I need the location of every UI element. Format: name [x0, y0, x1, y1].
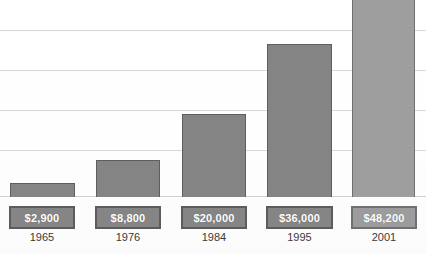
bar-value-label: $2,900 [9, 206, 75, 229]
bar-value-label: $36,000 [266, 206, 333, 229]
bar [267, 44, 332, 197]
value-label-row: $2,900$8,800$20,000$36,000$48,200 [0, 206, 426, 229]
year-axis-label: 2001 [351, 231, 417, 243]
year-axis-label: 1976 [95, 231, 161, 243]
year-axis-label: 1965 [9, 231, 75, 243]
category-axis-labels: 19651976198419952001 [0, 231, 426, 251]
bar [96, 160, 160, 197]
year-axis-label: 1984 [181, 231, 247, 243]
plot-area [0, 0, 426, 197]
bar-value-label: $48,200 [351, 206, 417, 229]
bar-chart: $2,900$8,800$20,000$36,000$48,200 196519… [0, 0, 426, 254]
bar [352, 0, 415, 197]
bar-value-label: $20,000 [181, 206, 247, 229]
year-axis-label: 1995 [266, 231, 333, 243]
bar-value-label: $8,800 [95, 206, 161, 229]
bar [182, 114, 246, 197]
bar [10, 183, 75, 197]
